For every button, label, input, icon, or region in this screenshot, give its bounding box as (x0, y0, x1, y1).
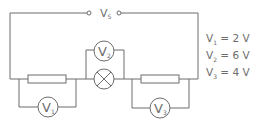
voltmeter-2: V2 (94, 41, 114, 61)
reading-v2: V2 = 6 V (206, 49, 250, 66)
supply-terminal-left (87, 11, 91, 15)
reading-v3: V3 = 4 V (206, 66, 250, 83)
supply-label: VS (100, 7, 112, 20)
voltmeter-3: V3 (150, 98, 170, 118)
v2-lead-right (114, 50, 124, 79)
resistor-2 (141, 75, 179, 83)
voltage-readings: V1 = 2 V V2 = 6 V V3 = 4 V (206, 32, 250, 83)
resistor-1 (28, 75, 66, 83)
supply-terminals: VS (87, 7, 121, 20)
reading-v1: V1 = 2 V (206, 32, 250, 49)
v2-lead-left (86, 50, 94, 79)
supply-terminal-right (117, 11, 121, 15)
voltmeter-1: V1 (38, 97, 58, 117)
lamp (94, 69, 114, 89)
